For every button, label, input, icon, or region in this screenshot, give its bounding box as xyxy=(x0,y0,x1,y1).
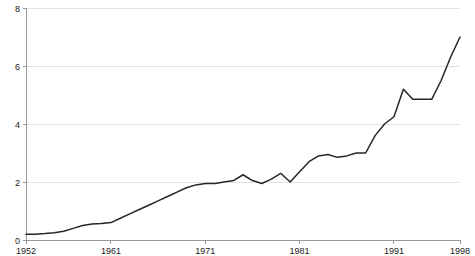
x-tick-label-1961: 1961 xyxy=(101,246,121,256)
x-tick-label-1952: 1952 xyxy=(16,246,36,256)
y-tick-label-2: 2 xyxy=(15,178,20,188)
x-axis-ticks: 195219611971198119911998 xyxy=(16,240,470,256)
chart-canvas: 02468 195219611971198119911998 xyxy=(0,0,475,256)
y-tick-label-0: 0 xyxy=(15,236,20,246)
x-tick-label-1998: 1998 xyxy=(450,246,470,256)
y-axis-ticks: 02468 xyxy=(15,4,26,246)
x-tick-label-1981: 1981 xyxy=(290,246,310,256)
series-group xyxy=(26,37,460,234)
y-tick-label-6: 6 xyxy=(15,62,20,72)
y-tick-label-4: 4 xyxy=(15,120,20,130)
x-tick-label-1971: 1971 xyxy=(195,246,215,256)
line-chart: 02468 195219611971198119911998 xyxy=(0,0,475,256)
series-line-1 xyxy=(26,37,460,234)
gridlines xyxy=(26,8,460,182)
x-tick-label-1991: 1991 xyxy=(384,246,404,256)
y-tick-label-8: 8 xyxy=(15,4,20,14)
